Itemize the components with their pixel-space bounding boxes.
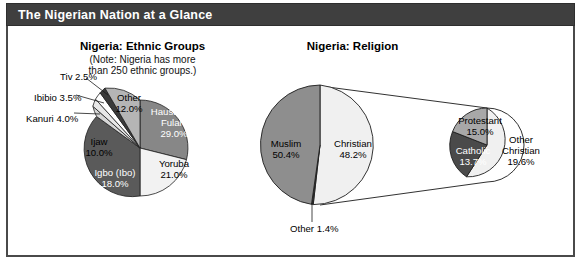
- label-kanuri: Kanuri 4.0%: [26, 113, 70, 124]
- label-tiv-value: 2.5%: [75, 71, 97, 82]
- label-kanuri-name: Kanuri: [26, 113, 54, 124]
- label-kanuri-value: 4.0%: [56, 113, 78, 124]
- label-other-religion-value: 1.4%: [317, 223, 339, 234]
- label-ibibio-name: Ibibio: [34, 92, 57, 103]
- label-ibibio-value: 3.5%: [60, 92, 82, 103]
- pie-slice-muslim: [260, 85, 320, 204]
- ethnic-chart-note-line1: (Note: Nigeria has more: [55, 54, 230, 66]
- label-ibibio: Ibibio 3.5%: [34, 92, 72, 103]
- label-other-religion: Other 1.4%: [290, 223, 334, 234]
- label-tiv: Tiv 2.5%: [60, 71, 90, 82]
- christian-breakout-pie: [450, 108, 505, 177]
- religion-chart-title: Nigeria: Religion: [265, 40, 440, 52]
- ethnic-chart-title: Nigeria: Ethnic Groups: [55, 40, 230, 52]
- pie-slice-christian: [313, 85, 373, 205]
- nigeria-at-a-glance-figure: The Nigerian Nation at a Glance: [0, 0, 581, 263]
- label-tiv-name: Tiv: [60, 71, 72, 82]
- religion-pie: [260, 85, 373, 222]
- label-other-religion-name: Other: [290, 223, 314, 234]
- ethnic-groups-pie: [74, 78, 188, 197]
